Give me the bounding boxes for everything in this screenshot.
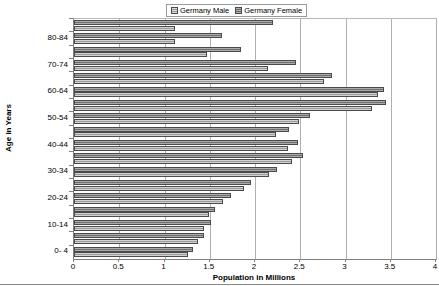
plot-area	[73, 18, 437, 260]
x-axis-tick-label: 1	[152, 263, 176, 271]
y-axis-tick-label: 0- 4	[4, 247, 68, 255]
x-axis-title: Population in Millions	[73, 274, 435, 282]
y-axis-tick-label: 30-34	[4, 167, 68, 175]
y-axis-tick-mark	[69, 191, 73, 192]
bar-germany-female	[74, 20, 273, 25]
bar-germany-female	[74, 193, 231, 198]
x-axis-tick-label: 0	[61, 263, 85, 271]
y-axis-tick-mark	[69, 18, 73, 19]
chart-legend: Germany MaleGermany Female	[166, 4, 307, 17]
x-axis-tick-label: 1.5	[197, 263, 221, 271]
x-axis-tick-label: 2	[242, 263, 266, 271]
y-axis-tick-mark	[69, 138, 73, 139]
y-axis-tick-label: 80-84	[4, 34, 68, 42]
y-axis-tick-mark	[69, 178, 73, 179]
bar-germany-male	[74, 119, 299, 124]
y-axis-tick-mark	[69, 98, 73, 99]
bar-group	[74, 139, 436, 152]
bar-germany-female	[74, 60, 296, 65]
bar-germany-male	[74, 226, 204, 231]
bar-germany-male	[74, 186, 244, 191]
y-axis-tick-label: 10-14	[4, 221, 68, 229]
y-axis-tick-mark	[69, 71, 73, 72]
population-pyramid-chart: Age in Years 80-8470-7460-6450-5440-4430…	[0, 0, 439, 286]
bar-group	[74, 166, 436, 179]
x-axis-tick-label: 2.5	[287, 263, 311, 271]
bar-germany-male	[74, 79, 324, 84]
bar-germany-female	[74, 73, 332, 78]
bar-germany-female	[74, 140, 298, 145]
bar-germany-female	[74, 220, 211, 225]
y-axis-tick-mark	[69, 218, 73, 219]
bar-group	[74, 246, 436, 259]
bar-germany-female	[74, 127, 289, 132]
bar-group	[74, 206, 436, 219]
bar-group	[74, 46, 436, 59]
y-axis-tick-mark	[69, 125, 73, 126]
footer-divider	[0, 284, 439, 285]
bar-germany-female	[74, 167, 277, 172]
bar-group	[74, 19, 436, 32]
y-axis-tick-mark	[69, 58, 73, 59]
x-axis-tick-label: 3.5	[378, 263, 402, 271]
bar-germany-male	[74, 52, 207, 57]
bar-germany-male	[74, 212, 209, 217]
bar-germany-male	[74, 146, 288, 151]
bar-germany-male	[74, 26, 175, 31]
bar-germany-male	[74, 66, 268, 71]
bar-germany-male	[74, 159, 292, 164]
bar-germany-male	[74, 132, 276, 137]
gridline	[436, 19, 437, 259]
bar-group	[74, 126, 436, 139]
y-axis-tick-mark	[69, 111, 73, 112]
y-axis-tick-mark	[69, 85, 73, 86]
x-axis-tick-label: 3	[333, 263, 357, 271]
bar-group	[74, 72, 436, 85]
bar-germany-male	[74, 106, 372, 111]
bar-group	[74, 99, 436, 112]
y-axis-tick-mark	[69, 205, 73, 206]
bar-germany-male	[74, 39, 175, 44]
x-axis-tick-label: 0.5	[106, 263, 130, 271]
bar-germany-male	[74, 199, 223, 204]
bar-group	[74, 86, 436, 99]
y-axis-tick-labels: 80-8470-7460-6450-5440-4430-3420-2410-14…	[0, 18, 68, 258]
y-axis-tick-mark	[69, 45, 73, 46]
bar-germany-female	[74, 233, 204, 238]
y-axis-tick-mark	[69, 151, 73, 152]
bar-germany-female	[74, 207, 215, 212]
y-axis-tick-label: 60-64	[4, 87, 68, 95]
y-axis-tick-label: 70-74	[4, 61, 68, 69]
bar-group	[74, 32, 436, 45]
bar-group	[74, 59, 436, 72]
y-axis-tick-label: 40-44	[4, 141, 68, 149]
y-axis-tick-mark	[69, 245, 73, 246]
bar-group	[74, 219, 436, 232]
y-axis-tick-mark	[69, 231, 73, 232]
bar-germany-female	[74, 47, 241, 52]
x-axis-tick-label: 4	[423, 263, 439, 271]
bar-germany-male	[74, 239, 198, 244]
bar-germany-female	[74, 247, 193, 252]
y-axis-tick-mark	[69, 165, 73, 166]
bar-group	[74, 192, 436, 205]
legend-swatch-female	[235, 7, 242, 14]
bar-group	[74, 179, 436, 192]
bar-germany-male	[74, 172, 269, 177]
bar-germany-female	[74, 100, 386, 105]
bar-germany-female	[74, 87, 384, 92]
legend-label: Germany Female	[244, 7, 302, 15]
legend-entry: Germany Female	[235, 7, 302, 15]
bar-germany-female	[74, 113, 310, 118]
bar-germany-male	[74, 92, 378, 97]
bar-group	[74, 112, 436, 125]
bar-group	[74, 152, 436, 165]
legend-label: Germany Male	[180, 7, 229, 15]
bar-group	[74, 232, 436, 245]
y-axis-tick-label: 50-54	[4, 114, 68, 122]
bar-germany-female	[74, 33, 222, 38]
bar-germany-male	[74, 252, 188, 257]
legend-swatch-male	[171, 7, 178, 14]
bar-germany-female	[74, 153, 303, 158]
y-axis-tick-label: 20-24	[4, 194, 68, 202]
